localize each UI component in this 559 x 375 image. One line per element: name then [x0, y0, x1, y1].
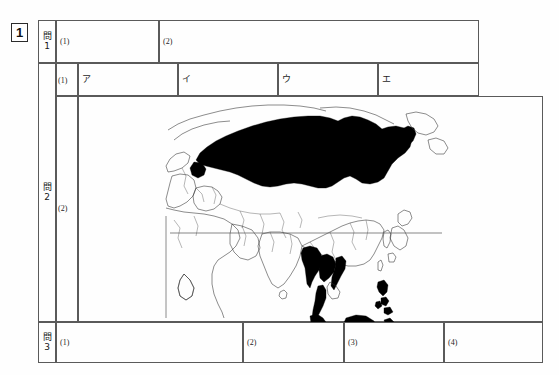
mon2-choice-i-cell[interactable] — [178, 63, 278, 96]
mon2-choice-u-cell[interactable] — [278, 63, 378, 96]
mon3-item4-cell[interactable] — [444, 322, 543, 363]
mon3-item4-label: (4) — [448, 339, 457, 347]
mon2-item2-answer-cell[interactable] — [78, 96, 543, 322]
mon2-label: 問 2 — [38, 63, 56, 322]
mon2-item2-label: (2) — [58, 205, 67, 213]
mon1-item2-cell[interactable] — [159, 20, 479, 63]
mon3-label: 問 3 — [38, 322, 56, 363]
mon3-number: 3 — [44, 343, 50, 353]
mon3-item2-cell[interactable] — [243, 322, 344, 363]
mon1-item1-label: (1) — [60, 38, 69, 46]
answer-sheet: 1 問 1 (1) (2) 問 2 (1) ア イ ウ エ (2) — [0, 0, 559, 375]
mon2-choice-i-label: イ — [182, 75, 191, 84]
mon1-label: 問 1 — [38, 20, 56, 63]
mon2-number: 2 — [44, 193, 50, 203]
mon2-item1-label: (1) — [58, 77, 67, 85]
mon2-choice-a-label: ア — [82, 75, 91, 84]
mon3-item1-label: (1) — [60, 339, 69, 347]
mon3-item3-cell[interactable] — [344, 322, 444, 363]
mon2-choice-u-label: ウ — [282, 75, 291, 84]
mon2-choice-e-label: エ — [382, 75, 391, 84]
mon1-item2-label: (2) — [163, 38, 172, 46]
mon2-choice-a-cell[interactable] — [78, 63, 178, 96]
mon2-choice-e-cell[interactable] — [378, 63, 479, 96]
mon1-number: 1 — [44, 42, 50, 52]
mon3-item3-label: (3) — [348, 339, 357, 347]
mon3-item2-label: (2) — [247, 339, 256, 347]
problem-number-badge: 1 — [11, 23, 28, 42]
mon1-item1-cell[interactable] — [56, 20, 159, 63]
mon3-item1-cell[interactable] — [56, 322, 243, 363]
